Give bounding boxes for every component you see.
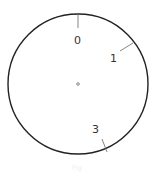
center-dot [77,83,80,86]
tick-label-1: 1 [110,52,117,65]
tick-label-3: 3 [92,123,99,136]
dial-diagram: 0 1 3 Fig [0,0,158,174]
figure-caption: Fig [72,164,82,172]
tick-label-0: 0 [74,34,81,47]
tick-1 [120,43,133,51]
